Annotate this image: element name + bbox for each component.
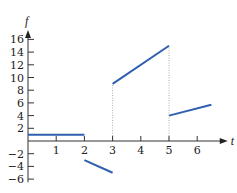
y-tick-label: 8 <box>17 84 24 97</box>
y-tick-label: −4 <box>8 160 24 173</box>
y-axis-label: f <box>25 14 30 28</box>
x-tick-label: 5 <box>166 144 173 157</box>
y-tick-label: 2 <box>17 122 24 135</box>
chart: 123456−6−4−2246810121416 t f <box>0 0 237 193</box>
x-tick-label: 4 <box>137 144 144 157</box>
ticks: 123456−6−4−2246810121416 <box>8 33 201 186</box>
x-axis-label: t <box>231 134 235 148</box>
y-tick-label: 4 <box>17 110 24 123</box>
segment-3-line <box>113 46 169 84</box>
y-tick-label: 16 <box>10 33 24 46</box>
y-tick-label: 10 <box>10 72 24 85</box>
segment-2-line <box>84 160 112 173</box>
x-tick-label: 3 <box>109 144 116 157</box>
x-tick-label: 1 <box>53 144 60 157</box>
x-tick-label: 2 <box>81 144 88 157</box>
y-tick-label: −2 <box>8 148 24 161</box>
x-tick-label: 6 <box>194 144 201 157</box>
segment-4-line <box>169 105 211 116</box>
y-tick-label: −6 <box>8 173 24 186</box>
y-axis-arrow <box>25 30 31 38</box>
x-axis-arrow <box>220 138 228 144</box>
y-tick-label: 14 <box>10 46 24 59</box>
y-tick-label: 12 <box>10 59 24 72</box>
y-tick-label: 6 <box>17 97 24 110</box>
dotted-guides <box>113 46 169 141</box>
axes <box>25 30 228 182</box>
